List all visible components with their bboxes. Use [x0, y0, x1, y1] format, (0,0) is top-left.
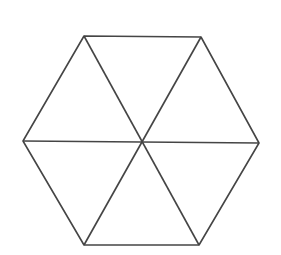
- hexagon-diagram: [0, 0, 281, 255]
- hexagon-diagonals: [23, 36, 259, 245]
- diagonal-right-to-left: [23, 141, 259, 143]
- hexagon-figure: [0, 0, 281, 255]
